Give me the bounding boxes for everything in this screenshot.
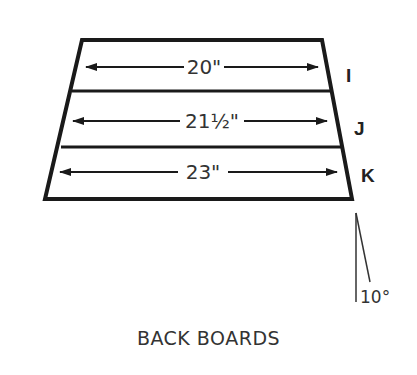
label-k: K bbox=[361, 165, 375, 186]
length-j: 21½" bbox=[185, 109, 239, 133]
angle-label: 10° bbox=[360, 287, 390, 307]
length-k: 23" bbox=[186, 160, 221, 184]
label-j: J bbox=[354, 118, 365, 139]
diagram-title: BACK BOARDS bbox=[0, 327, 417, 349]
angle-slant bbox=[356, 213, 370, 282]
length-i: 20" bbox=[187, 55, 222, 79]
back-boards-diagram: 20" 21½" 23" I J K 10° bbox=[0, 0, 417, 375]
label-i: I bbox=[346, 65, 351, 86]
